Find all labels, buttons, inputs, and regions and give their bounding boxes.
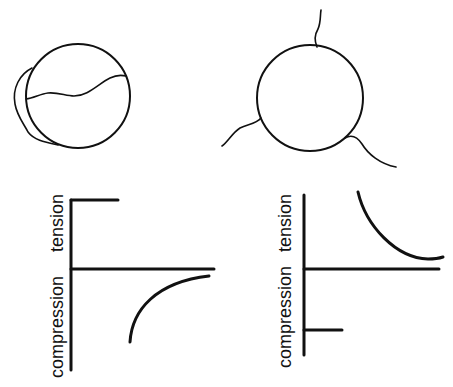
filament-top [315,10,321,47]
compression-curve [130,276,209,342]
label-compression: compression [47,276,67,378]
diagram-canvas: tension compression tension compression [0,0,453,387]
label-tension: tension [275,194,295,252]
crescent-cap [14,68,58,145]
wavy-internal-line [26,75,126,99]
filament-left [222,118,261,146]
filament-right [345,136,396,167]
cell-with-filaments [222,10,396,167]
graph-left: tension compression [47,194,214,378]
circle-outline [257,45,363,151]
label-tension: tension [47,194,67,252]
cell-with-crescent [14,44,130,148]
graph-right: tension compression [275,192,443,368]
label-compression: compression [275,266,295,368]
tension-curve [358,192,443,259]
